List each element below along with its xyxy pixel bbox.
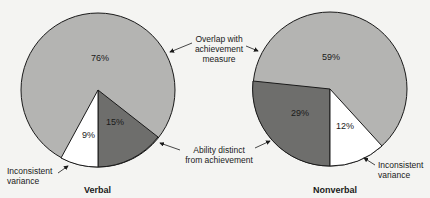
verbal-title: Verbal	[84, 185, 111, 195]
inconsistent-verbal-annotation: Inconsistent variance	[7, 166, 68, 186]
svg-text:measure: measure	[202, 54, 235, 64]
nonverbal-inconsistent-pct: 12%	[336, 121, 354, 131]
verbal-ability-pct: 15%	[106, 117, 124, 127]
nonverbal-overlap-pct: 59%	[322, 52, 340, 62]
nonverbal-title: Nonverbal	[313, 185, 357, 195]
overlap-annotation: Overlap with achievement measure	[170, 34, 258, 64]
svg-text:achievement: achievement	[195, 44, 244, 54]
inconsistent-nonverbal-annotation: Inconsistent variance	[364, 158, 424, 180]
nonverbal-ability-slice	[253, 81, 330, 166]
svg-text:variance: variance	[7, 176, 39, 186]
svg-text:Inconsistent: Inconsistent	[378, 160, 424, 170]
verbal-overlap-pct: 76%	[91, 53, 109, 63]
svg-text:from achievement: from achievement	[185, 155, 253, 165]
verbal-inconsistent-pct: 9%	[82, 130, 95, 140]
svg-text:variance: variance	[378, 170, 410, 180]
pie-charts-figure: 76% 15% 9% Verbal 59% 29% 12% Nonverbal …	[0, 0, 430, 198]
svg-text:Inconsistent: Inconsistent	[7, 166, 53, 176]
svg-text:Ability distinct: Ability distinct	[193, 145, 245, 155]
svg-text:Overlap with: Overlap with	[195, 34, 243, 44]
ability-annotation: Ability distinct from achievement	[160, 141, 270, 165]
nonverbal-ability-pct: 29%	[291, 108, 309, 118]
